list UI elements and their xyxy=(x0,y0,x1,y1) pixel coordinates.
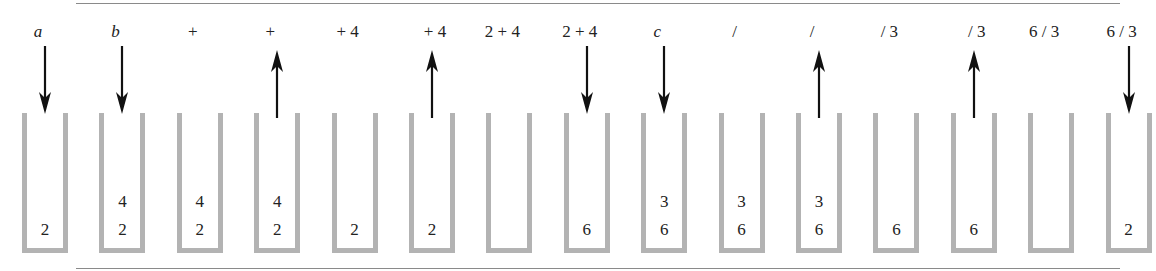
stack-value: 6 xyxy=(660,216,669,244)
expression-label: 2 + 4 xyxy=(542,22,618,42)
stack-container: 6 xyxy=(564,113,610,253)
stack-cells: 2 xyxy=(414,216,450,244)
expression-label: / 3 xyxy=(851,22,927,42)
stack-container xyxy=(486,113,532,253)
stack-value: 2 xyxy=(428,216,437,244)
stack-frame-3: + 24 xyxy=(155,0,231,271)
stack-cells: 63 xyxy=(801,188,837,244)
stack-container: 2 xyxy=(332,113,378,253)
expression-label: + xyxy=(232,22,308,42)
stack-frame-6: + 4 2 xyxy=(387,0,463,271)
pop-arrow-up-icon xyxy=(425,48,439,118)
stack-frame-7: 2 + 4 xyxy=(464,0,540,271)
stack-cells: 6 xyxy=(956,216,992,244)
expression-label: + 4 xyxy=(310,22,386,42)
expression-label: + 4 xyxy=(397,22,473,42)
push-arrow-down-icon xyxy=(1122,46,1136,116)
stack-value: 4 xyxy=(273,188,282,216)
stack-container xyxy=(1028,113,1074,253)
stack-value: 3 xyxy=(815,188,824,216)
expression-label: 6 / 3 xyxy=(1084,22,1156,42)
stack-value: 3 xyxy=(660,188,669,216)
stack-frame-13: / 3 6 xyxy=(929,0,1005,271)
stack-frame-12: / 3 6 xyxy=(851,0,927,271)
stack-cells: 6 xyxy=(878,216,914,244)
stack-container: 63 xyxy=(641,113,687,253)
stack-cells: 24 xyxy=(104,188,140,244)
stack-frame-10: / 63 xyxy=(697,0,773,271)
stack-frame-11: / 63 xyxy=(774,0,850,271)
expression-label: 2 + 4 xyxy=(464,22,540,42)
stack-value: 2 xyxy=(1124,216,1133,244)
expression-label: b xyxy=(77,22,153,42)
stack-frame-2: b 24 xyxy=(77,0,153,271)
stack-container: 2 xyxy=(22,113,68,253)
stack-value: 6 xyxy=(583,216,592,244)
expression-label: c xyxy=(619,22,695,42)
expression-label: a xyxy=(0,22,76,42)
stack-container: 63 xyxy=(796,113,842,253)
stack-cells: 2 xyxy=(337,216,373,244)
stack-value: 6 xyxy=(737,216,746,244)
push-arrow-down-icon xyxy=(657,46,671,116)
stack-value: 2 xyxy=(196,216,205,244)
stack-value: 6 xyxy=(815,216,824,244)
stack-frame-9: c 63 xyxy=(619,0,695,271)
pop-arrow-up-icon xyxy=(967,48,981,118)
pop-arrow-up-icon xyxy=(812,48,826,118)
stack-value: 2 xyxy=(41,216,50,244)
stack-container: 24 xyxy=(254,113,300,253)
stack-value: 3 xyxy=(737,188,746,216)
stack-value: 4 xyxy=(196,188,205,216)
push-arrow-down-icon xyxy=(38,46,52,116)
push-arrow-down-icon xyxy=(580,46,594,116)
stack-cells: 6 xyxy=(569,216,605,244)
stack-frame-4: + 24 xyxy=(232,0,308,271)
stack-container: 2 xyxy=(409,113,455,253)
stack-value: 6 xyxy=(892,216,901,244)
stack-value: 2 xyxy=(273,216,282,244)
stack-value: 4 xyxy=(118,188,127,216)
stack-cells: 63 xyxy=(724,188,760,244)
expression-label: / xyxy=(697,22,773,42)
stack-container: 24 xyxy=(99,113,145,253)
stack-container: 2 xyxy=(1106,113,1152,253)
stack-cells: 2 xyxy=(27,216,63,244)
stack-container: 63 xyxy=(719,113,765,253)
expression-label: + xyxy=(155,22,231,42)
stack-frame-5: + 4 2 xyxy=(310,0,386,271)
stack-container: 6 xyxy=(951,113,997,253)
stack-container: 24 xyxy=(177,113,223,253)
stack-container: 6 xyxy=(873,113,919,253)
stack-cells: 24 xyxy=(259,188,295,244)
expression-label: 6 / 3 xyxy=(1006,22,1082,42)
stack-frame-1: a 2 xyxy=(0,0,76,271)
stack-cells: 24 xyxy=(182,188,218,244)
stack-value: 2 xyxy=(118,216,127,244)
expression-label: / xyxy=(774,22,850,42)
bottom-rule xyxy=(76,268,1120,269)
push-arrow-down-icon xyxy=(115,46,129,116)
stack-value: 2 xyxy=(350,216,359,244)
expression-label: / 3 xyxy=(939,22,1015,42)
pop-arrow-up-icon xyxy=(270,48,284,118)
stack-cells: 63 xyxy=(646,188,682,244)
stack-frame-15: 6 / 3 2 xyxy=(1084,0,1156,271)
stack-frame-14: 6 / 3 xyxy=(1006,0,1082,271)
stack-cells: 2 xyxy=(1111,216,1147,244)
stack-value: 6 xyxy=(970,216,979,244)
stack-frame-8: 2 + 4 6 xyxy=(542,0,618,271)
